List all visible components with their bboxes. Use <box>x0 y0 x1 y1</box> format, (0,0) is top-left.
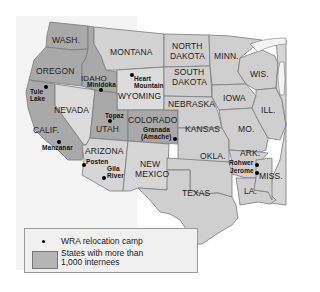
camp-label-heart-mountain-2: Mountain <box>134 83 164 90</box>
label-oregon: OREGON <box>36 67 74 76</box>
camp-dot-topaz <box>108 119 112 123</box>
camp-dot-minidoka <box>99 88 103 92</box>
camp-dot-gila-river <box>102 176 106 180</box>
camp-label-posten: Posten <box>86 159 108 166</box>
legend-states-label: States with more than 1,000 internees <box>61 249 201 267</box>
camp-dot-tule-lake <box>44 85 48 89</box>
camp-label-manzanar: Manzanar <box>42 145 73 152</box>
label-calif: CALIF. <box>33 126 59 135</box>
label-nevada: NEVADA <box>54 106 89 115</box>
label-texas: TEXAS <box>182 189 210 198</box>
label-new-mexico-2: MEXICO <box>135 170 169 179</box>
label-nebraska: NEBRASKA <box>168 100 215 109</box>
legend-camp-dot-icon <box>42 240 45 243</box>
camp-dot-rohwer <box>255 163 259 167</box>
camp-dot-jerome <box>255 171 259 175</box>
label-north-dakota-2: DAKOTA <box>170 52 205 61</box>
camp-label-tule-lake-2: Lake <box>30 96 45 103</box>
legend-state-swatch-icon <box>32 251 58 269</box>
camp-label-minidoka: Minidoka <box>87 82 116 89</box>
label-miss: MISS. <box>259 172 283 181</box>
label-la: LA. <box>244 187 257 196</box>
label-wyoming: WYOMING <box>118 92 161 101</box>
camp-label-gila-river-2: River <box>107 173 124 180</box>
label-arizona: ARIZONA <box>85 147 123 156</box>
camp-label-rohwer: Rohwer <box>229 160 253 167</box>
legend: WRA relocation camp States with more tha… <box>24 228 198 273</box>
label-ill: ILL. <box>261 106 276 115</box>
label-iowa: IOWA <box>223 94 246 103</box>
label-new-mexico-1: NEW <box>140 160 160 169</box>
label-south-dakota-1: SOUTH <box>174 68 204 77</box>
label-ark: ARK. <box>240 149 260 158</box>
label-utah: UTAH <box>96 125 119 134</box>
lake-michigan <box>278 62 285 95</box>
label-wis: WIS. <box>250 70 269 79</box>
label-south-dakota-2: DAKOTA <box>172 78 207 87</box>
camp-label-granada-2: (Amache) <box>141 134 171 141</box>
label-montana: MONTANA <box>110 48 153 57</box>
label-colorado: COLORADO <box>128 116 177 125</box>
label-mo: MO. <box>238 125 254 134</box>
legend-camp-label: WRA relocation camp <box>61 236 143 246</box>
label-minn: MINN. <box>214 52 239 61</box>
legend-states-line2: 1,000 internees <box>61 258 201 267</box>
camp-label-topaz: Topaz <box>105 113 124 120</box>
label-okla: OKLA. <box>200 152 226 161</box>
label-wash: WASH. <box>52 36 80 45</box>
camp-dot-granada <box>173 137 177 141</box>
label-north-dakota-1: NORTH <box>172 42 203 51</box>
camp-label-jerome: Jerome <box>230 168 254 175</box>
label-kansas: KANSAS <box>185 125 220 134</box>
